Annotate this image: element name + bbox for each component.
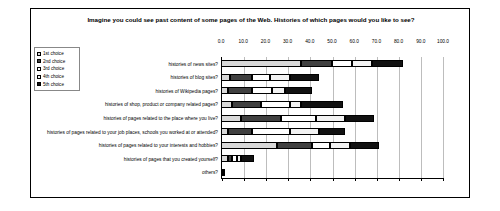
- bar-segment-4: [272, 87, 285, 94]
- legend-item-3: 3rd choice: [37, 65, 77, 73]
- bar-segment-2: [301, 60, 332, 67]
- chart-title: Imagine you could see past content of so…: [71, 15, 431, 24]
- legend-item-5: 5th choice: [37, 80, 77, 88]
- bar-segment-4: [352, 60, 372, 67]
- legend-item-1: 1st choice: [37, 50, 77, 58]
- x-tick-label: 10.0: [239, 39, 248, 44]
- x-tick-label: 100.0: [437, 39, 449, 44]
- x-tick-label: 90.0: [416, 39, 425, 44]
- bar-segment-2: [230, 74, 252, 81]
- category-label: histories of blog sites?: [171, 75, 218, 80]
- bar-segment-3: [312, 142, 330, 149]
- bar-row: histories of pages related to your job p…: [221, 125, 443, 139]
- bar-segment-1: [221, 142, 277, 149]
- legend-label: 5th choice: [43, 82, 64, 87]
- bar-segment-2: [232, 101, 261, 108]
- stacked-bar: [221, 57, 443, 71]
- bar-segment-1: [221, 128, 228, 135]
- bar-segment-1: [221, 101, 232, 108]
- bar-segment-3: [252, 74, 270, 81]
- category-label: histories of pages related to your job p…: [47, 129, 218, 134]
- bar-segment-5: [372, 60, 403, 67]
- chart-legend: 1st choice2nd choice3rd choice4th choice…: [34, 47, 80, 91]
- bar-segment-4: [290, 101, 301, 108]
- plot-area: histories of news sites?histories of blo…: [221, 49, 443, 185]
- stacked-bar: [221, 98, 443, 112]
- stacked-bar: [221, 165, 443, 179]
- legend-swatch-icon: [37, 52, 41, 56]
- legend-swatch-icon: [37, 59, 41, 63]
- bar-segment-3: [261, 101, 290, 108]
- bar-segment-5: [290, 74, 319, 81]
- category-label: others?: [202, 170, 218, 175]
- bar-segment-4: [330, 142, 350, 149]
- axis-tick: [443, 178, 444, 181]
- category-label: histories of shop, product or company re…: [105, 102, 218, 107]
- x-tick-label: 70.0: [372, 39, 381, 44]
- bar-segment-1: [221, 115, 241, 122]
- category-label: histories of pages that you created your…: [124, 156, 218, 161]
- x-tick-label: 50.0: [327, 39, 336, 44]
- legend-swatch-icon: [37, 67, 41, 71]
- bar-row: histories of Wikipedia pages?: [221, 84, 443, 98]
- bar-segment-3: [332, 60, 352, 67]
- stacked-bar: [221, 152, 443, 166]
- stacked-bar: [221, 84, 443, 98]
- bar-segment-3: [252, 128, 290, 135]
- x-tick-label: 60.0: [350, 39, 359, 44]
- legend-item-2: 2nd choice: [37, 58, 77, 66]
- legend-swatch-icon: [37, 75, 41, 79]
- bar-segment-2: [277, 142, 313, 149]
- category-label: histories of Wikipedia pages?: [156, 88, 218, 93]
- bar-segment-3: [281, 115, 317, 122]
- bar-segment-1: [221, 74, 230, 81]
- bar-segment-4: [316, 115, 345, 122]
- bar-segment-2: [241, 115, 281, 122]
- bar-segment-1: [221, 60, 301, 67]
- bar-segment-5: [350, 142, 379, 149]
- stacked-bar: [221, 138, 443, 152]
- bar-segment-5: [285, 87, 312, 94]
- bar-row: others?: [221, 165, 443, 179]
- bar-row: histories of blog sites?: [221, 71, 443, 85]
- bar-segment-5: [345, 115, 374, 122]
- legend-label: 3rd choice: [43, 66, 64, 71]
- stacked-bar: [221, 71, 443, 85]
- legend-item-4: 4th choice: [37, 73, 77, 81]
- bar-segment-2: [228, 87, 252, 94]
- chart-figure: Imagine you could see past content of so…: [30, 8, 470, 198]
- x-axis-tick-labels: 0.010.020.030.040.050.060.070.080.090.01…: [221, 39, 443, 49]
- x-tick-label: 80.0: [394, 39, 403, 44]
- stacked-bar: [221, 111, 443, 125]
- x-tick-label: 40.0: [305, 39, 314, 44]
- legend-label: 4th choice: [43, 74, 64, 79]
- bar-segment-1: [221, 155, 228, 162]
- bar-segment-4: [290, 128, 319, 135]
- category-label: histories of news sites?: [168, 61, 218, 66]
- x-tick-label: 0.0: [218, 39, 225, 44]
- bar-segment-1: [221, 87, 228, 94]
- bar-segment-3: [252, 87, 272, 94]
- x-tick-label: 20.0: [261, 39, 270, 44]
- bar-segment-2: [228, 128, 252, 135]
- category-label: histories of pages related to your inter…: [99, 143, 218, 148]
- category-label: histories of pages related to the place …: [104, 116, 218, 121]
- bar-segment-5: [301, 101, 343, 108]
- bar-row: histories of pages related to the place …: [221, 111, 443, 125]
- bar-row: histories of shop, product or company re…: [221, 98, 443, 112]
- bar-row: histories of news sites?: [221, 57, 443, 71]
- x-tick-label: 30.0: [283, 39, 292, 44]
- bar-segment-4: [270, 74, 290, 81]
- bar-segment-5: [223, 169, 225, 176]
- gridline: [443, 57, 444, 178]
- bar-row: histories of pages that you created your…: [221, 152, 443, 166]
- legend-label: 1st choice: [43, 51, 64, 56]
- bar-segment-5: [241, 155, 254, 162]
- bar-row: histories of pages related to your inter…: [221, 138, 443, 152]
- bar-segment-5: [319, 128, 346, 135]
- legend-label: 2nd choice: [43, 59, 65, 64]
- legend-swatch-icon: [37, 82, 41, 86]
- stacked-bar: [221, 125, 443, 139]
